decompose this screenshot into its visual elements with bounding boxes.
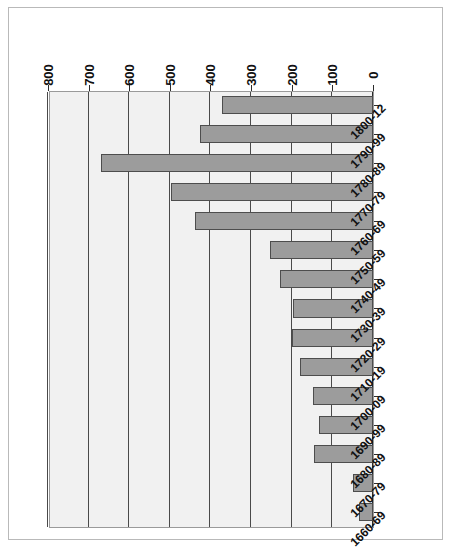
bar-row	[50, 125, 373, 143]
bar-row	[50, 270, 373, 288]
bar-row	[50, 329, 373, 347]
bar-row	[50, 387, 373, 405]
bars-layer	[50, 92, 373, 527]
bar-row	[50, 299, 373, 317]
value-axis: 0100200300400500600700800	[49, 11, 374, 91]
value-tick-label-800: 800	[42, 55, 56, 95]
chart-rotation-stage: 0100200300400500600700800 1660-691670-79…	[9, 8, 453, 549]
category-axis: 1660-691670-791680-891690-991700-091710-…	[374, 91, 434, 528]
value-tick-label-600: 600	[123, 55, 137, 95]
value-tick-label-100: 100	[326, 55, 340, 95]
bar-1770-79[interactable]	[172, 183, 374, 201]
gridline-800	[47, 92, 48, 527]
plot-area	[49, 91, 374, 528]
bar-row	[50, 503, 373, 521]
value-tick-label-200: 200	[286, 55, 300, 95]
bar-chart: 0100200300400500600700800 1660-691670-79…	[9, 8, 453, 549]
bar-row	[50, 241, 373, 259]
value-tick-label-500: 500	[164, 55, 178, 95]
bar-row	[50, 445, 373, 463]
bar-row	[50, 212, 373, 230]
figure-frame: 0100200300400500600700800 1660-691670-79…	[8, 7, 443, 540]
value-tick-label-300: 300	[245, 55, 259, 95]
bar-row	[50, 183, 373, 201]
bar-row	[50, 474, 373, 492]
bar-1780-89[interactable]	[101, 154, 373, 172]
value-tick-label-0: 0	[367, 55, 381, 95]
bar-row	[50, 416, 373, 434]
value-tick-label-700: 700	[83, 55, 97, 95]
bar-1760-69[interactable]	[195, 212, 373, 230]
bar-1800-12[interactable]	[222, 96, 373, 114]
bar-row	[50, 154, 373, 172]
value-tick-label-400: 400	[205, 55, 219, 95]
bar-1790-99[interactable]	[200, 125, 373, 143]
bar-row	[50, 96, 373, 114]
bar-row	[50, 358, 373, 376]
